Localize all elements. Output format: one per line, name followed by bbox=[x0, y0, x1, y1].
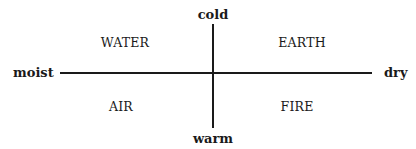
axis-label-left: moist bbox=[13, 66, 54, 79]
moist-dry-axis-line bbox=[60, 72, 372, 74]
quadrant-label-earth: EARTH bbox=[278, 37, 326, 50]
axis-label-top: cold bbox=[198, 8, 229, 21]
axis-label-right: dry bbox=[384, 66, 408, 79]
quadrant-label-air: AIR bbox=[109, 101, 133, 114]
quadrant-label-water: WATER bbox=[101, 37, 149, 50]
quadrant-label-fire: FIRE bbox=[281, 101, 314, 114]
axis-label-bottom: warm bbox=[193, 132, 233, 145]
cold-warm-axis-line bbox=[212, 24, 214, 128]
